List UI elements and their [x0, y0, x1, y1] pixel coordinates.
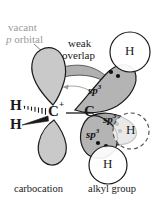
sp3-label-middle: sp3	[103, 113, 116, 125]
sp3-label-upper: sp3	[88, 84, 101, 96]
vacant-orbital-label-line2: p orbital	[6, 34, 43, 46]
sp3-label-lower: sp3	[86, 128, 99, 140]
hyperconjugation-figure: vacant p orbital weak overlap H H C + C …	[0, 0, 157, 202]
hydrogen-label-dashed-circle: H	[126, 123, 135, 137]
electron-dot	[96, 141, 100, 145]
hydrogen-label-top-circle: H	[125, 44, 134, 58]
vacant-orbital-label-line1: vacant	[8, 22, 37, 34]
vacant-p-orbital-lower-lobe	[38, 120, 66, 165]
hydrogen-label-bottom-circle: H	[103, 157, 112, 171]
sp3-base-upper: sp	[88, 84, 98, 96]
p-orbital-label-rest: orbital	[12, 33, 43, 45]
electron-dot	[116, 74, 120, 78]
alkyl-carbon-label: C	[84, 104, 95, 120]
sp3-exponent-middle: 3	[113, 112, 117, 120]
sp3-base-lower: sp	[86, 128, 96, 140]
hydrogen-label-hashed: H	[10, 98, 22, 114]
caption-alkyl-group: alkyl group	[88, 183, 136, 194]
hydrogen-label-wedge: H	[10, 117, 22, 133]
caption-carbocation: carbocation	[14, 183, 63, 194]
sp3-exponent-upper: 3	[98, 83, 102, 91]
weak-overlap-label-line2: overlap	[62, 50, 95, 62]
sp3-base-middle: sp	[103, 113, 113, 125]
carbocation-carbon-label: C	[48, 104, 59, 120]
sp3-exponent-lower: 3	[96, 127, 100, 135]
electron-dot	[109, 70, 113, 74]
carbocation-positive-charge: +	[59, 100, 64, 109]
vacant-p-orbital-upper-lobe	[32, 48, 66, 105]
weak-overlap-label-line1: weak	[68, 38, 91, 50]
wedge-bond-h-to-carbocation	[22, 116, 49, 125]
hashed-bond-h-to-carbocation	[25, 106, 46, 114]
